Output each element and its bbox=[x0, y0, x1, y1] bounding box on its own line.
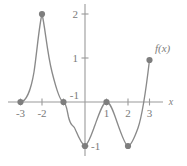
x-tick-label-neg3: -3 bbox=[16, 107, 26, 119]
y-tick-label-2: 2 bbox=[73, 8, 79, 20]
point-3-1 bbox=[146, 57, 152, 63]
axes-group bbox=[8, 4, 163, 156]
x-tick-label-2: 2 bbox=[125, 107, 131, 119]
x-axis-label: x bbox=[168, 96, 174, 107]
graph-canvas: -3 -2 1 2 3 2 1 -1 -1 x f(x) bbox=[0, 0, 187, 166]
point-0-neg1 bbox=[82, 143, 88, 149]
x-tick-label-neg2: -2 bbox=[37, 107, 46, 119]
x-tick-label-3: 3 bbox=[147, 107, 153, 119]
x-tick-label-1: 1 bbox=[104, 107, 110, 119]
point-2-neg1 bbox=[125, 143, 131, 149]
curve-label-fx: f(x) bbox=[155, 42, 171, 55]
y-tick-label-neg1-lower: -1 bbox=[91, 140, 100, 152]
point-neg3-0 bbox=[17, 99, 23, 105]
point-1-0 bbox=[103, 99, 109, 105]
y-tick-label-1: 1 bbox=[73, 52, 79, 64]
y-tick-label-neg1-upper: -1 bbox=[70, 89, 79, 101]
point-neg2-2 bbox=[39, 11, 45, 17]
function-graph-figure: -3 -2 1 2 3 2 1 -1 -1 x f(x) bbox=[0, 0, 187, 166]
point-neg1p5-0 bbox=[60, 99, 66, 105]
